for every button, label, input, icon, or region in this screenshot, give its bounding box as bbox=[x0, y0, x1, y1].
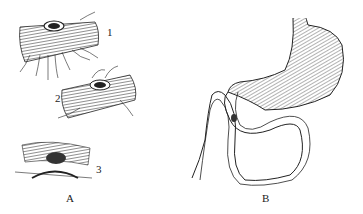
stomach-drawing bbox=[228, 18, 344, 110]
panel-label-b: B bbox=[262, 192, 269, 204]
subfigure-label-1: 1 bbox=[107, 26, 113, 38]
panel-a: 1 2 3 A bbox=[0, 0, 180, 214]
subfigure-1-drawing bbox=[20, 12, 99, 80]
panel-b: B bbox=[180, 0, 363, 214]
panel-label-a: A bbox=[66, 192, 74, 204]
lesion-mark bbox=[231, 114, 237, 122]
stomach-jejunum-illustration bbox=[180, 0, 363, 214]
bowel-repair-illustration bbox=[0, 0, 180, 214]
subfigure-2-drawing bbox=[58, 66, 136, 118]
subfigure-label-3: 3 bbox=[96, 163, 102, 175]
subfigure-3-drawing bbox=[15, 142, 92, 178]
subfigure-label-2: 2 bbox=[55, 92, 61, 104]
